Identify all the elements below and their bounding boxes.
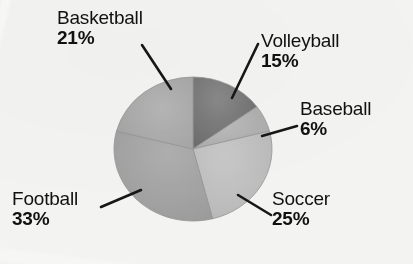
pie-label-soccer: Soccer 25% (272, 189, 330, 229)
pie-label-football: Football 33% (12, 189, 78, 229)
pie-label-baseball: Baseball 6% (300, 99, 371, 139)
pie-chart-page: Basketball 21% Volleyball 15% Baseball 6… (0, 0, 413, 264)
pie-label-soccer-name: Soccer (272, 189, 330, 208)
pie-label-volleyball-name: Volleyball (261, 31, 339, 50)
pie-label-basketball-name: Basketball (57, 8, 143, 27)
pie-label-football-name: Football (12, 189, 78, 208)
leader-line-basketball (142, 45, 171, 89)
pie-label-baseball-percent: 6% (300, 119, 371, 138)
leader-line-football (101, 190, 141, 207)
pie-label-volleyball-percent: 15% (261, 51, 339, 70)
pie-label-volleyball: Volleyball 15% (261, 31, 339, 71)
pie-label-football-percent: 33% (12, 209, 78, 228)
pie-slice-group (114, 77, 272, 221)
pie-label-baseball-name: Baseball (300, 99, 371, 118)
pie-label-basketball-percent: 21% (57, 28, 143, 47)
pie-label-soccer-percent: 25% (272, 209, 330, 228)
leader-line-volleyball (232, 44, 258, 98)
pie-label-basketball: Basketball 21% (57, 8, 143, 48)
